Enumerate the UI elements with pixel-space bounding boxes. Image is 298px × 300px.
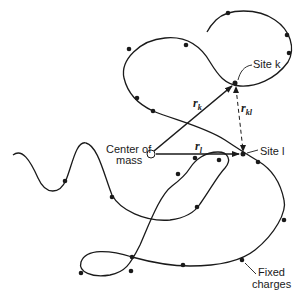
fixed-charges-dots bbox=[63, 11, 292, 276]
site-k-leader bbox=[238, 65, 252, 80]
center-of-mass-label-line2: mass bbox=[116, 154, 142, 166]
r-k-symbol: rk bbox=[193, 96, 202, 111]
fixed-charges-label-line1: Fixed bbox=[258, 266, 285, 278]
polymer-chain-curve bbox=[13, 11, 292, 276]
r-kl-symbol: rkl bbox=[241, 101, 252, 116]
fixed-charges-label-line2: charges bbox=[252, 278, 291, 290]
vector-r-kl bbox=[236, 88, 243, 150]
site-k-label: Site k bbox=[253, 58, 281, 70]
site-l-leader bbox=[247, 150, 258, 153]
fixed-charges-leader bbox=[245, 263, 256, 274]
r-l-symbol: rl bbox=[195, 139, 202, 154]
r-kl-arrowhead-up bbox=[233, 86, 239, 93]
site-l-label: Site l bbox=[260, 145, 284, 157]
